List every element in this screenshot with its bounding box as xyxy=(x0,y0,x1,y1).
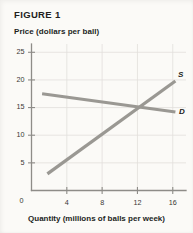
x-tick-label: 16 xyxy=(169,198,177,207)
x-tick-labels: 481216 xyxy=(65,198,177,207)
y-tick-label: 10 xyxy=(17,130,25,139)
figure-container: FIGURE 1 Price (dollars per ball) 051015… xyxy=(0,0,193,233)
y-tick-label: 20 xyxy=(17,75,25,84)
supply-demand-chart: 0510152025 481216 SD xyxy=(0,0,193,233)
data-series xyxy=(42,81,175,174)
series-label-d: D xyxy=(179,107,185,116)
y-tick-labels: 0510152025 xyxy=(17,47,25,205)
y-tick-label: 25 xyxy=(17,47,25,56)
y-tick-label: 15 xyxy=(17,102,25,111)
x-tick-label: 8 xyxy=(100,198,104,207)
x-axis-label: Quantity (millions of balls per week) xyxy=(0,214,193,223)
x-tick-label: 12 xyxy=(133,198,141,207)
y-tick-label: 5 xyxy=(21,158,25,167)
series-label-s: S xyxy=(178,70,184,79)
x-tick-label: 4 xyxy=(65,198,69,207)
y-tick-label: 0 xyxy=(20,196,24,205)
series-labels: SD xyxy=(178,70,185,116)
